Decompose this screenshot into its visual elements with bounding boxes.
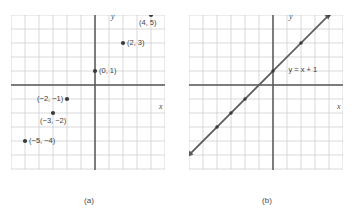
point-label: (0, 1) (99, 67, 117, 75)
plotted-point (65, 97, 69, 101)
plotted-point (51, 111, 55, 115)
point-label: (4, 5) (139, 19, 157, 27)
x-axis-label: x (159, 103, 163, 111)
point-label: (−2, −1) (37, 95, 63, 103)
line-marker-point (299, 41, 302, 44)
x-axis-label: x (337, 103, 341, 111)
y-axis-label: y (289, 13, 293, 21)
line-marker-point (271, 69, 274, 72)
plotted-point (149, 15, 153, 17)
y-axis-label: y (111, 13, 115, 21)
plotted-point (93, 69, 97, 73)
panel-a: y x (4, 5)(2, 3)(0, 1)(−2, −1)(−3, −2)(−… (0, 0, 178, 220)
plotted-point (121, 41, 125, 45)
line-marker-point (215, 125, 218, 128)
point-label: (2, 3) (127, 39, 145, 47)
coordinate-plane-figure: y x (4, 5)(2, 3)(0, 1)(−2, −1)(−3, −2)(−… (0, 0, 357, 220)
line-marker-point (243, 97, 246, 100)
point-label: (−5, −4) (29, 137, 55, 145)
panel-b-plot: y x y = x + 1 (189, 15, 343, 183)
panel-b: y x y = x + 1 (b) (178, 0, 356, 220)
graph-line (189, 15, 331, 157)
panel-a-caption: (a) (0, 196, 178, 205)
line-equation-label: y = x + 1 (288, 66, 317, 74)
plotted-point (23, 139, 27, 143)
panel-b-grid (189, 15, 343, 183)
panel-b-caption: (b) (178, 196, 356, 205)
panel-a-plot: y x (4, 5)(2, 3)(0, 1)(−2, −1)(−3, −2)(−… (11, 15, 165, 183)
line-marker-point (229, 111, 232, 114)
point-label: (−3, −2) (40, 117, 66, 125)
